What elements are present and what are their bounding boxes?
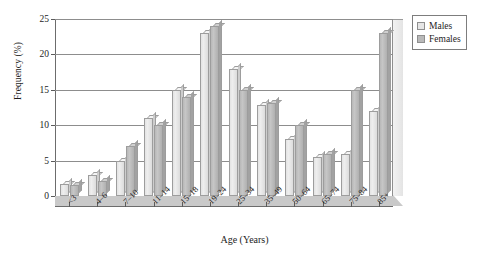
y-tick-mark — [51, 54, 55, 55]
y-tick-label: 0 — [44, 191, 49, 201]
bar-group — [252, 103, 280, 196]
bar-males — [144, 118, 153, 196]
y-tick-mark — [51, 19, 55, 20]
chart-legend: Males Females — [412, 15, 467, 50]
bar-males — [257, 105, 266, 196]
bar-chart: Frequency (%) 0510152025 <34–67–1011–141… — [0, 0, 489, 262]
bar-front-face — [88, 175, 97, 196]
bar-side-face — [304, 119, 307, 193]
bar-males — [313, 157, 322, 196]
bar-front-face — [200, 33, 209, 196]
bar-side-face — [191, 91, 194, 193]
bar-side-face — [360, 84, 363, 193]
bar-males — [200, 33, 209, 196]
y-tick-label: 20 — [40, 49, 50, 59]
bar-front-face — [341, 154, 350, 196]
bar-front-face — [182, 97, 191, 196]
bar-front-face — [144, 118, 153, 196]
legend-swatch-females-icon — [417, 35, 425, 43]
bar-group — [224, 69, 252, 196]
y-tick-mark — [51, 90, 55, 91]
bar-front-face — [60, 184, 69, 196]
bar-side-face — [107, 175, 110, 193]
bar-front-face — [229, 69, 238, 196]
bar-front-face — [285, 139, 294, 196]
bar-females — [267, 103, 276, 196]
bar-group — [196, 26, 224, 196]
bar-front-face — [369, 111, 378, 196]
bar-front-face — [257, 105, 266, 196]
bar-females — [210, 26, 219, 196]
legend-swatch-males-icon — [417, 22, 425, 30]
legend-item-females: Females — [417, 33, 461, 45]
bar-males — [341, 154, 350, 196]
y-tick-label: 10 — [40, 120, 50, 130]
bar-females — [182, 97, 191, 196]
bar-group — [168, 90, 196, 196]
y-tick-label: 5 — [44, 156, 49, 166]
bar-males — [116, 161, 125, 196]
bar-front-face — [351, 90, 360, 196]
bar-side-face — [248, 84, 251, 193]
y-tick-label: 15 — [40, 85, 50, 95]
legend-label-females: Females — [429, 33, 461, 45]
bar-females — [351, 90, 360, 196]
bar-front-face — [116, 161, 125, 196]
y-axis-title: Frequency (%) — [13, 11, 23, 131]
bar-females — [379, 33, 388, 196]
bar-side-face — [163, 119, 166, 193]
bar-front-face — [267, 103, 276, 196]
bar-side-face — [79, 179, 82, 193]
bar-males — [172, 90, 181, 196]
bar-front-face — [210, 26, 219, 196]
y-tick-mark — [51, 161, 55, 162]
plot-area: 0510152025 <34–67–1011–1415–1819–2425–34… — [55, 19, 393, 196]
bar-side-face — [276, 97, 279, 193]
bar-front-face — [239, 90, 248, 196]
bar-front-face — [379, 33, 388, 196]
bar-males — [60, 184, 69, 196]
bar-males — [369, 111, 378, 196]
y-tick-mark — [51, 196, 55, 197]
bar-group — [365, 33, 393, 196]
y-tick-mark — [51, 125, 55, 126]
y-tick-label: 25 — [40, 14, 50, 24]
legend-item-males: Males — [417, 20, 461, 32]
legend-label-males: Males — [429, 20, 452, 32]
bar-side-face — [388, 27, 391, 193]
bar-side-face — [219, 20, 222, 193]
bar-group — [337, 90, 365, 196]
bar-males — [229, 69, 238, 196]
bar-males — [285, 139, 294, 196]
bar-side-face — [135, 140, 138, 193]
bar-front-face — [172, 90, 181, 196]
bar-females — [239, 90, 248, 196]
gridline — [55, 54, 393, 55]
plot-right-wall — [393, 19, 403, 196]
bar-front-face — [313, 157, 322, 196]
x-axis-title: Age (Years) — [0, 234, 489, 245]
gridline — [55, 19, 393, 20]
bar-males — [88, 175, 97, 196]
